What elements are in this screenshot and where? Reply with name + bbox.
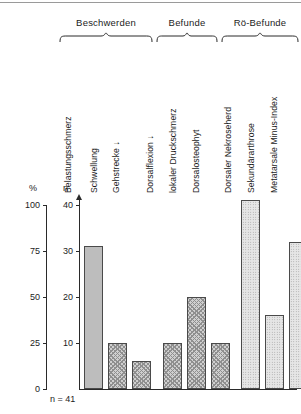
bar-sekundaerarthrose xyxy=(265,315,284,389)
count-tick-30 xyxy=(76,251,80,252)
category-label-metatarsale-minus-index: Metatarsale Minus-Index xyxy=(269,97,279,193)
category-label-dorsalflexion: Dorsalflexion ↓ xyxy=(145,135,155,193)
group-brace-beschwerden xyxy=(59,32,153,42)
group-brace-roe-befunde xyxy=(221,32,299,42)
percent-tick-75 xyxy=(43,251,47,252)
group-brace-befunde xyxy=(156,32,218,42)
count-tick-10 xyxy=(76,343,80,344)
count-tick-label-10: 10 xyxy=(50,338,73,348)
percent-tick-label-50: 50 xyxy=(8,292,40,302)
bar-lokaler-druckschmerz xyxy=(187,297,206,389)
percent-tick-100 xyxy=(43,205,47,206)
x-axis-baseline xyxy=(79,389,297,390)
group-label-befunde: Befunde xyxy=(156,17,218,28)
percent-tick-0 xyxy=(43,389,47,390)
percent-tick-label-100: 100 xyxy=(8,200,40,210)
bar-belastungsschmerz xyxy=(84,246,103,389)
percent-tick-label-0: 0 xyxy=(8,384,40,394)
bar-gehstrecke xyxy=(132,361,151,389)
bar-schwellung xyxy=(108,343,127,389)
percent-tick-50 xyxy=(43,297,47,298)
group-label-beschwerden: Beschwerden xyxy=(58,17,154,28)
count-tick-label-40: 40 xyxy=(50,200,73,210)
bar-chart-figure: Beschwerden Befunde Rö-Befunde Belastung… xyxy=(0,0,301,414)
count-tick-20 xyxy=(76,297,80,298)
count-tick-label-30: 30 xyxy=(50,246,73,256)
bar-dorsalflexion xyxy=(163,343,182,389)
count-tick-40 xyxy=(76,205,80,206)
category-label-dorsalosteophyt: Dorsalosteophyt xyxy=(191,129,201,193)
total-sample-size-label: n = 41 xyxy=(50,394,75,404)
bar-dorsalosteophyt xyxy=(211,343,230,389)
category-label-gehstrecke: Gehstrecke ↓ xyxy=(111,141,121,193)
count-axis-name: n xyxy=(63,183,68,193)
percent-tick-label-25: 25 xyxy=(8,338,40,348)
bar-metatarsale-minus-index xyxy=(289,242,301,389)
top-rule xyxy=(0,2,301,3)
category-label-sekundaerarthrose: Sekundärarthrose xyxy=(246,123,256,193)
percent-tick-25 xyxy=(43,343,47,344)
category-label-lokaler-druckschmerz: lokaler Druckschmerz xyxy=(168,108,178,193)
percent-axis-name: % xyxy=(29,183,37,193)
category-label-schwellung: Schwellung xyxy=(89,148,99,193)
count-axis-arrow xyxy=(76,194,82,200)
count-tick-label-20: 20 xyxy=(50,292,73,302)
category-label-belastungsschmerz: Belastungsschmerz xyxy=(63,116,73,193)
bar-dorsaler-nekroseherd xyxy=(241,200,260,389)
count-axis-line xyxy=(79,200,80,390)
group-label-roe-befunde: Rö-Befunde xyxy=(220,17,300,28)
category-label-dorsaler-nekroseherd: Dorsaler Nekroseherd xyxy=(223,107,233,193)
percent-tick-label-75: 75 xyxy=(8,246,40,256)
